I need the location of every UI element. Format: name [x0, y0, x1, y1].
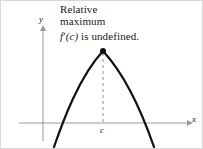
y-axis-label: y [39, 14, 43, 24]
derivative-argument: (c) [66, 30, 79, 42]
relative-maximum-point-marker [100, 48, 106, 54]
annotation-derivative-undefined: f′(c) is undefined. [60, 30, 139, 42]
relative-maximum-figure: Relative maximum f′(c) is undefined. y x… [0, 0, 203, 149]
x-axis-label: x [192, 114, 196, 124]
derivative-undefined-text: is undefined. [78, 30, 139, 42]
curve-left-branch [54, 51, 103, 147]
y-axis-arrowhead [40, 25, 46, 31]
x-tick-label-c: c [100, 125, 104, 135]
annotation-relative: Relative [60, 3, 97, 15]
curve-right-branch [103, 51, 154, 147]
annotation-maximum: maximum [60, 15, 105, 27]
